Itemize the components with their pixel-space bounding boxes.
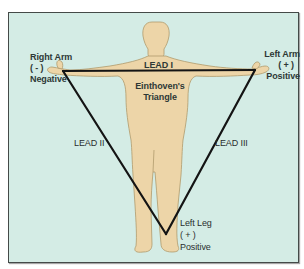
right-arm-polarity: ( - ) <box>30 63 72 74</box>
left-arm-label: Left Arm ( + ) Positive <box>250 49 300 82</box>
lead-1-label: LEAD I <box>144 60 173 71</box>
lead-2-label: LEAD II <box>74 138 104 149</box>
lead-3-label: LEAD III <box>215 138 248 149</box>
triangle-title-line-1: Einthoven's <box>132 81 188 92</box>
right-arm-name: Right Arm <box>30 52 72 63</box>
right-arm-sign: Negative <box>30 74 72 85</box>
left-arm-polarity: ( + ) <box>250 60 300 71</box>
left-leg-sign: Positive <box>180 241 212 253</box>
triangle-title-line-2: Triangle <box>132 92 188 103</box>
left-leg-label: Left Leg ( + ) Positive <box>180 217 212 253</box>
left-arm-sign: Positive <box>250 71 300 82</box>
left-leg-name: Left Leg <box>180 217 212 229</box>
triangle-title: Einthoven's Triangle <box>132 81 188 103</box>
left-arm-name: Left Arm <box>250 49 300 60</box>
right-arm-label: Right Arm ( - ) Negative <box>30 52 72 85</box>
left-leg-polarity: ( + ) <box>180 229 212 241</box>
einthoven-diagram <box>0 0 304 269</box>
